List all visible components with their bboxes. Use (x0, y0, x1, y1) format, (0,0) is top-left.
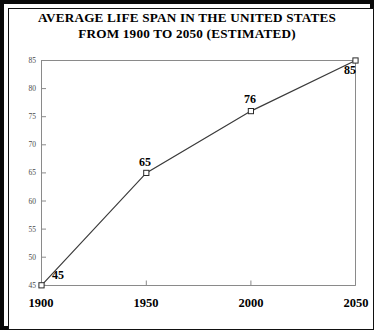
x-axis-label-1900: 1900 (11, 296, 71, 311)
data-label-2050: 85 (344, 63, 356, 78)
x-axis-label-1950: 1950 (116, 296, 176, 311)
data-label-2000: 76 (244, 92, 256, 107)
data-point-2000 (248, 109, 253, 114)
y-axis-label-65: 65 (16, 168, 36, 177)
y-axis-label-85: 85 (16, 56, 36, 65)
data-label-1950: 65 (139, 155, 151, 170)
x-axis-label-2050: 2050 (326, 296, 374, 311)
y-axis-label-60: 60 (16, 197, 36, 206)
y-axis-label-50: 50 (16, 253, 36, 262)
data-point-1900 (39, 283, 44, 288)
y-axis-label-70: 70 (16, 140, 36, 149)
chart-plot-area: 85 80 75 70 65 60 55 50 45 1900 1950 200… (0, 0, 374, 330)
data-point-1950 (144, 170, 149, 175)
y-axis-label-80: 80 (16, 84, 36, 93)
y-axis-label-55: 55 (16, 225, 36, 234)
y-axis-label-45: 45 (16, 281, 36, 290)
data-label-1900: 45 (52, 268, 64, 283)
x-axis-label-2000: 2000 (221, 296, 281, 311)
x-axis-ticks (42, 281, 356, 286)
y-axis-label-75: 75 (16, 112, 36, 121)
chart-axes (42, 60, 356, 286)
data-point-markers (39, 58, 358, 288)
y-axis-ticks (42, 61, 47, 286)
life-span-line-series (42, 61, 356, 286)
